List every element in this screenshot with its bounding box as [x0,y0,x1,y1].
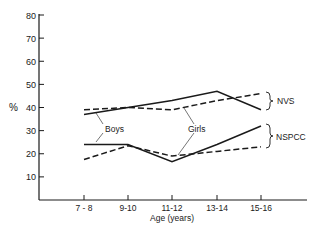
y-ticks: 1020304050607080 [26,11,44,183]
line-chart: 1020304050607080 7 - 89-1011-1213-1415-1… [0,0,314,233]
x-tick-label: 13-14 [206,203,228,213]
girls-annotation: Girls [188,124,205,134]
series-line-nspcc-girls [84,146,261,160]
boys-annotation: Boys [105,124,124,134]
y-tick-label: 10 [26,172,36,182]
x-ticks: 7 - 89-1011-1213-1415-16 [75,195,272,213]
axes [39,14,307,200]
series-line-nvs-girls [84,94,261,110]
x-tick-label: 11-12 [161,203,182,213]
y-tick-label: 30 [26,126,36,136]
x-tick-label: 15-16 [250,203,272,213]
nspcc-brace-icon [266,124,273,148]
y-axis-label: % [9,102,18,113]
y-tick-label: 20 [26,149,36,159]
y-tick-label: 60 [26,57,36,67]
y-tick-label: 80 [26,11,36,21]
legend-braces [266,92,273,148]
series-line-nvs-boys [84,91,261,114]
x-tick-label: 7 - 8 [75,203,92,213]
x-tick-label: 9-10 [119,203,136,213]
y-tick-label: 50 [26,80,36,90]
y-tick-label: 70 [26,34,36,44]
nspcc-legend-label: NSPCC [276,132,306,142]
nvs-legend-label: NVS [277,96,295,106]
nvs-brace-icon [266,92,273,110]
x-axis-title: Age (years) [150,213,194,223]
y-tick-label: 40 [26,103,36,113]
